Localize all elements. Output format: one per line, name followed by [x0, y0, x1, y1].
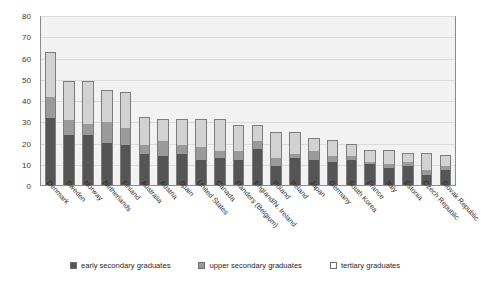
- bar-stack[interactable]: [233, 125, 245, 185]
- x-axis-labels: DenmarkSwedenNorwayNetherlandsFinlandAus…: [41, 186, 455, 252]
- bar-segment[interactable]: [177, 120, 187, 145]
- bar-segment[interactable]: [83, 124, 93, 135]
- bar-segment[interactable]: [121, 128, 131, 145]
- bar-stack[interactable]: [139, 117, 151, 185]
- bar-segment[interactable]: [177, 145, 187, 153]
- y-tick-label: 50: [22, 75, 31, 84]
- bar-column[interactable]: [192, 17, 211, 185]
- bar-column[interactable]: [97, 17, 116, 185]
- legend-swatch-icon: [198, 262, 205, 269]
- bar-segment[interactable]: [234, 151, 244, 159]
- bar-stack[interactable]: [176, 119, 188, 185]
- bar-segment[interactable]: [347, 145, 357, 156]
- y-tick-label: 20: [22, 139, 31, 148]
- bar-segment[interactable]: [403, 154, 413, 162]
- bar-segment[interactable]: [328, 141, 338, 156]
- bars-layer: [41, 17, 455, 185]
- bar-segment[interactable]: [46, 118, 56, 185]
- bar-segment[interactable]: [83, 82, 93, 124]
- bar-segment[interactable]: [309, 139, 319, 152]
- bar-column[interactable]: [304, 17, 323, 185]
- bar-column[interactable]: [116, 17, 135, 185]
- bar-segment[interactable]: [215, 120, 225, 152]
- y-tick-label: 30: [22, 118, 31, 127]
- bar-column[interactable]: [154, 17, 173, 185]
- bar-segment[interactable]: [140, 145, 150, 153]
- bar-column[interactable]: [173, 17, 192, 185]
- bar-stack[interactable]: [120, 92, 132, 185]
- bar-column[interactable]: [342, 17, 361, 185]
- legend-label: upper secondary graduates: [209, 261, 301, 270]
- bar-column[interactable]: [210, 17, 229, 185]
- bar-segment[interactable]: [158, 141, 168, 156]
- legend-swatch-icon: [330, 262, 337, 269]
- bar-stack[interactable]: [195, 119, 207, 185]
- legend-label: tertiary graduates: [341, 261, 400, 270]
- bar-segment[interactable]: [234, 126, 244, 151]
- bar-column[interactable]: [380, 17, 399, 185]
- bar-stack[interactable]: [63, 81, 75, 185]
- bar-stack[interactable]: [289, 132, 301, 185]
- bar-column[interactable]: [361, 17, 380, 185]
- bar-column[interactable]: [41, 17, 60, 185]
- legend-item[interactable]: upper secondary graduates: [198, 261, 301, 270]
- y-axis: 01020304050607080: [0, 16, 36, 186]
- bar-segment[interactable]: [365, 151, 375, 162]
- bar-column[interactable]: [323, 17, 342, 185]
- bar-segment[interactable]: [158, 120, 168, 141]
- bar-segment[interactable]: [196, 120, 206, 147]
- bar-column[interactable]: [417, 17, 436, 185]
- bar-segment[interactable]: [46, 53, 56, 97]
- legend-swatch-icon: [70, 262, 77, 269]
- bar-segment[interactable]: [64, 135, 74, 185]
- bar-column[interactable]: [267, 17, 286, 185]
- bar-segment[interactable]: [102, 91, 112, 123]
- bar-stack[interactable]: [252, 125, 264, 185]
- legend-item[interactable]: early secondary graduates: [70, 261, 171, 270]
- chart-legend: early secondary graduatesupper secondary…: [0, 261, 470, 270]
- bar-column[interactable]: [286, 17, 305, 185]
- bar-segment[interactable]: [102, 122, 112, 143]
- y-tick-label: 70: [22, 33, 31, 42]
- bar-segment[interactable]: [290, 133, 300, 154]
- bar-segment[interactable]: [441, 156, 451, 167]
- bar-segment[interactable]: [271, 133, 281, 158]
- bar-stack[interactable]: [101, 90, 113, 186]
- bar-segment[interactable]: [121, 93, 131, 129]
- bar-stack[interactable]: [82, 81, 94, 185]
- bar-column[interactable]: [398, 17, 417, 185]
- bar-stack[interactable]: [45, 52, 57, 185]
- bar-segment[interactable]: [309, 151, 319, 159]
- bar-segment[interactable]: [196, 147, 206, 160]
- bar-segment[interactable]: [64, 120, 74, 135]
- y-tick-label: 40: [22, 97, 31, 106]
- plot-wrapper: [40, 16, 456, 186]
- bar-stack[interactable]: [214, 119, 226, 185]
- bar-segment[interactable]: [253, 141, 263, 149]
- bar-column[interactable]: [135, 17, 154, 185]
- legend-item[interactable]: tertiary graduates: [330, 261, 400, 270]
- legend-label: early secondary graduates: [81, 261, 171, 270]
- bar-segment[interactable]: [64, 82, 74, 120]
- bar-segment[interactable]: [271, 158, 281, 166]
- y-tick-label: 80: [22, 12, 31, 21]
- y-tick-label: 0: [27, 182, 31, 191]
- bar-segment[interactable]: [46, 97, 56, 118]
- bar-column[interactable]: [229, 17, 248, 185]
- y-tick-label: 60: [22, 54, 31, 63]
- bar-stack[interactable]: [270, 132, 282, 185]
- bar-column[interactable]: [436, 17, 455, 185]
- y-tick-label: 10: [22, 160, 31, 169]
- bar-segment[interactable]: [253, 126, 263, 141]
- bar-column[interactable]: [60, 17, 79, 185]
- bar-stack[interactable]: [157, 119, 169, 185]
- bar-column[interactable]: [248, 17, 267, 185]
- bar-segment[interactable]: [140, 118, 150, 145]
- bar-segment[interactable]: [384, 151, 394, 164]
- bar-segment[interactable]: [422, 154, 432, 171]
- bar-column[interactable]: [79, 17, 98, 185]
